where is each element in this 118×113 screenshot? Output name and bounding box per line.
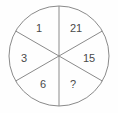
sector-label-bottom-left: 6	[40, 79, 46, 90]
sector-label-left: 3	[21, 53, 27, 64]
sector-label-top-left: 1	[36, 23, 42, 34]
puzzle-diagram-svg	[0, 0, 118, 113]
sector-label-right: 15	[83, 53, 95, 64]
sector-label-bottom-right-unknown: ?	[70, 79, 76, 90]
sector-label-top-right: 21	[70, 23, 82, 34]
circle-sector-puzzle-figure: 1 21 15 ? 6 3	[0, 0, 118, 113]
